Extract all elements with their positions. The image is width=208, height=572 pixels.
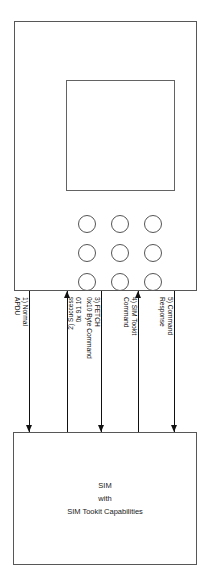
message-label-5: 5) Command Response	[33, 291, 174, 432]
phone-keypad	[70, 210, 170, 296]
keypad-key[interactable]	[78, 244, 96, 262]
arrow-head-up-icon	[64, 291, 70, 298]
keypad-key[interactable]	[111, 215, 129, 233]
mobile-phone-body	[14, 21, 197, 291]
message-label-3: 3) FETCH 0x10 Byte Command	[0, 291, 101, 432]
message-label-line: Command	[122, 291, 130, 432]
keypad-key[interactable]	[78, 215, 96, 233]
message-label-line: Response	[158, 291, 166, 432]
message-label-line: APDU	[13, 291, 21, 432]
arrow-head-down-icon	[171, 425, 177, 432]
arrow-shaft	[174, 291, 175, 432]
arrow-shaft	[138, 291, 139, 432]
sim-title: SIM	[98, 479, 111, 492]
sim-card-body: SIM with SIM Tookit Capabilities	[13, 432, 197, 565]
keypad-key[interactable]	[144, 244, 162, 262]
keypad-key[interactable]	[111, 273, 129, 291]
sim-subtitle: with	[98, 492, 111, 505]
keypad-key[interactable]	[144, 273, 162, 291]
phone-screen	[66, 80, 175, 191]
diagram-canvas: 1) Normal APDU 2) Success 0x 91 10 3) FE…	[0, 0, 208, 572]
sim-capabilities: SIM Tookit Capabilities	[67, 505, 143, 518]
keypad-key[interactable]	[111, 244, 129, 262]
arrow-head-down-icon	[98, 425, 104, 432]
arrow-shaft	[101, 291, 102, 432]
message-label-1: 1) Normal APDU	[0, 291, 29, 432]
keypad-key[interactable]	[144, 215, 162, 233]
message-label-4: 4) SIM Tookit Command	[0, 291, 138, 432]
message-label-line: 0x10 Byte Command	[85, 291, 93, 432]
arrow-shaft	[67, 291, 68, 432]
keypad-key[interactable]	[78, 273, 96, 291]
arrow-head-down-icon	[26, 425, 32, 432]
arrow-shaft	[29, 291, 30, 432]
arrow-head-up-icon	[135, 291, 141, 298]
